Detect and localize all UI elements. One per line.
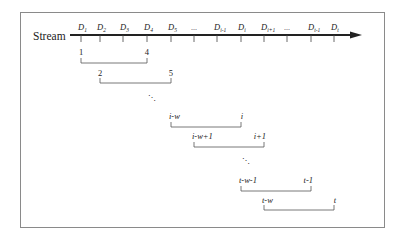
tick-label: Di+1	[260, 22, 275, 33]
window-start-label: i-w+1	[192, 131, 213, 141]
diagonal-ellipsis: ⋱	[242, 156, 250, 165]
sliding-windows: 1425i-wii-w+1i+1t-w-1t-1t-wt	[79, 47, 337, 210]
window-start-label: t-w	[262, 195, 273, 205]
stream-ticks: D1D2D3D4D5...Di-1DiDi+1...Dt-1Dt	[77, 22, 339, 42]
diagonal-ellipsis: ⋱	[148, 93, 156, 102]
window-bracket: 25	[98, 68, 173, 83]
window-bracket: t-w-1t-1	[239, 175, 313, 191]
window-end-label: 5	[169, 68, 173, 78]
tick-label: D3	[119, 22, 129, 33]
arrow-head-icon	[350, 32, 362, 39]
window-start-label: 2	[98, 68, 102, 78]
tick-label: Di	[237, 22, 246, 33]
tick-label: Di-1	[213, 22, 227, 33]
window-bracket: i-wi	[169, 111, 244, 127]
tick-label: Dt	[330, 22, 339, 33]
sliding-window-diagram: Stream D1D2D3D4D5...Di-1DiDi+1...Dt-1Dt …	[0, 0, 406, 241]
window-end-label: i+1	[254, 131, 266, 141]
continuation-dots: ⋱⋱	[148, 93, 250, 165]
tick-ellipsis: ...	[191, 23, 197, 32]
window-end-label: t	[334, 195, 337, 205]
tick-label: Dt-1	[307, 22, 321, 33]
window-start-label: i-w	[169, 111, 180, 121]
window-end-label: t-1	[304, 175, 313, 185]
tick-label: D5	[167, 22, 177, 33]
window-start-label: t-w-1	[239, 175, 257, 185]
tick-label: D2	[96, 22, 106, 33]
window-end-label: i	[241, 111, 244, 121]
window-bracket: 14	[79, 47, 150, 63]
window-end-label: 4	[145, 47, 150, 57]
stream-label: Stream	[33, 30, 66, 42]
window-bracket: t-wt	[262, 195, 337, 210]
window-bracket: i-w+1i+1	[192, 131, 266, 147]
window-start-label: 1	[79, 47, 83, 57]
tick-label: D1	[77, 22, 87, 33]
tick-label: D4	[143, 22, 153, 33]
tick-ellipsis: ...	[284, 23, 290, 32]
